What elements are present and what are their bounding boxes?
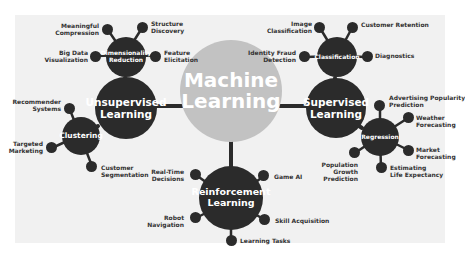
leaf-dot (86, 161, 97, 172)
leaf-dot (137, 22, 148, 33)
leaf-dot (102, 24, 113, 35)
label-image-classification: Image Classification (267, 21, 312, 35)
classification-label: Classification (314, 54, 359, 61)
leaf-dot (403, 145, 414, 156)
supervised-line1: Supervised (303, 96, 369, 108)
reinforcement-learning-node: Reinforcement Learning (199, 166, 263, 230)
label-game-ai: Game AI (274, 174, 302, 181)
center-line2: Learning (181, 91, 280, 112)
label-learning-tasks: Learning Tasks (240, 238, 290, 245)
leaf-dot (376, 162, 387, 173)
leaf-dot (349, 147, 360, 158)
leaf-dot (64, 103, 75, 114)
supervised-line2: Learning (310, 108, 362, 120)
classification-node: Classification (317, 37, 357, 77)
leaf-dot (258, 170, 269, 181)
center-line1: Machine (184, 70, 278, 91)
leaf-dot (226, 235, 237, 246)
leaf-dot (299, 51, 310, 62)
dimred-line2: Reduction (109, 57, 143, 64)
leaf-dot (314, 22, 325, 33)
leaf-dot (362, 51, 373, 62)
leaf-dot (374, 100, 385, 111)
regression-label: Regression (361, 134, 399, 141)
label-market-forecasting: Market Forecasting (416, 147, 456, 161)
label-population-growth-prediction: Population Growth Prediction (321, 162, 358, 183)
unsupervised-line1: Unsupervised (86, 96, 167, 108)
leaf-dot (259, 214, 270, 225)
label-targeted-marketing: Targeted Marketing (9, 141, 43, 155)
label-identity-fraud-detection: Identity Fraud Detection (248, 50, 296, 64)
unsupervised-line2: Learning (100, 108, 152, 120)
label-diagnostics: Diagnostics (375, 53, 414, 60)
leaf-dot (190, 212, 201, 223)
reinforcement-line2: Learning (207, 198, 254, 209)
label-estimating-life-expectancy: Estimating Life Expectancy (390, 165, 443, 179)
label-customer-segmentation: Customer Segmentation (101, 165, 149, 179)
label-big-data-visualization: Big Data Visualization (45, 50, 88, 64)
clustering-label: Clustering (59, 132, 103, 141)
leaf-dot (150, 51, 161, 62)
label-real-time-decisions: Real-Time Decisions (151, 169, 184, 183)
dimensionality-reduction-node: Dimensionality Reduction (106, 37, 146, 77)
label-robot-navigation: Robot Navigation (147, 215, 184, 229)
supervised-learning-node: Supervised Learning (306, 78, 366, 138)
regression-node: Regression (361, 118, 399, 156)
label-advertising-popularity-prediction: Advertising Popularity Prediction (389, 95, 465, 109)
label-weather-forecasting: Weather Forecasting (416, 115, 456, 129)
unsupervised-learning-node: Unsupervised Learning (95, 77, 157, 139)
label-customer-retention: Customer Retention (361, 22, 429, 29)
label-skill-acquisition: Skill Acquisition (275, 218, 329, 225)
clustering-node: Clustering (62, 117, 100, 155)
leaf-dot (190, 169, 201, 180)
leaf-dot (347, 22, 358, 33)
label-recommender-systems: Recommender Systems (12, 99, 61, 113)
label-feature-elicitation: Feature Elicitation (164, 50, 198, 64)
leaf-dot (46, 142, 57, 153)
leaf-dot (403, 112, 414, 123)
label-structure-discovery: Structure Discovery (151, 21, 184, 35)
label-meaningful-compression: Meaningful Compression (55, 23, 99, 37)
leaf-dot (90, 51, 101, 62)
